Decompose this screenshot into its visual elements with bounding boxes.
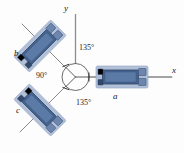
angle-label-left: 90°: [36, 72, 47, 80]
gauge-a-label: a: [113, 92, 118, 101]
radius-b: [66, 67, 76, 77]
gauge-b-graphic: [14, 20, 66, 72]
strain-gauge-rosette-figure: y x 135° 90° 135° a b c: [0, 0, 184, 153]
diagram-canvas: [0, 0, 184, 153]
gauge-b-label: b: [14, 49, 19, 58]
x-axis-label: x: [172, 66, 176, 75]
gauge-c-graphic: [14, 84, 66, 136]
radius-c: [66, 77, 76, 87]
angle-label-bottom: 135°: [76, 99, 91, 107]
gauge-a-graphic: [96, 66, 148, 88]
angle-label-top: 135°: [79, 44, 94, 52]
orientation-radii: [66, 67, 89, 86]
y-axis-label: y: [64, 4, 68, 13]
gauge-c-label: c: [16, 106, 20, 115]
